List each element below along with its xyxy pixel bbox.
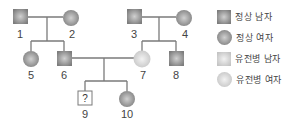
label-3: 3: [131, 28, 137, 40]
label-8: 8: [173, 69, 179, 81]
affected-female-circle-icon: [217, 72, 232, 87]
label-9: 9: [82, 108, 88, 120]
legend-item-normal-female: 정상 여자: [217, 30, 293, 45]
legend-label: 유전병 남자: [235, 52, 281, 65]
label-7: 7: [140, 69, 146, 81]
normal-male-square-icon: [217, 10, 231, 24]
individual-1-normal-male: [13, 9, 28, 24]
individual-4-normal-female: [176, 10, 192, 26]
label-1: 1: [17, 28, 23, 40]
pedigree-lines: [28, 17, 176, 91]
label-4: 4: [182, 28, 188, 40]
affected-male-square-icon: [217, 52, 231, 66]
normal-female-circle-icon: [217, 30, 232, 45]
individual-2-normal-female: [63, 10, 79, 26]
legend: 정상 남자 정상 여자 유전병 남자 유전병 여자: [217, 9, 293, 93]
label-2: 2: [69, 28, 75, 40]
legend-item-affected-male: 유전병 남자: [217, 51, 293, 66]
individual-3-normal-male: [127, 9, 142, 24]
label-5: 5: [28, 69, 34, 81]
label-10: 10: [121, 108, 133, 120]
individual-7-affected-female: [134, 51, 151, 68]
unknown-mark: ?: [82, 93, 88, 104]
individual-6-normal-male: [57, 51, 72, 66]
individual-5-normal-female: [23, 51, 39, 67]
individual-8-normal-male: [169, 51, 184, 66]
legend-label: 유전병 여자: [236, 73, 282, 86]
label-6: 6: [61, 69, 67, 81]
individual-10-normal-female: [119, 91, 135, 107]
legend-item-affected-female: 유전병 여자: [217, 72, 293, 87]
legend-item-normal-male: 정상 남자: [217, 9, 293, 24]
legend-label: 정상 여자: [236, 31, 273, 44]
legend-label: 정상 남자: [235, 10, 272, 23]
